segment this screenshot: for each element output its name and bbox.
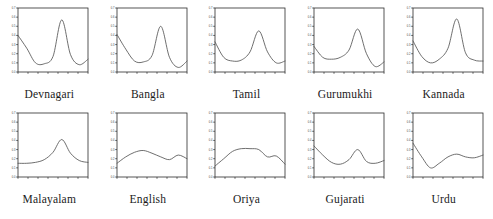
chart-caption-kannada: Kannada xyxy=(423,89,465,101)
chart-caption-malayalam: Malayalam xyxy=(23,194,77,206)
plot-svg: 0.00.10.20.30.40.50.60.7 xyxy=(7,109,91,187)
y-tick-label: 0.5 xyxy=(209,129,213,133)
y-tick-label: 0.2 xyxy=(111,52,115,56)
chart-cell-urdu: 0.00.10.20.30.40.50.60.7 Urdu xyxy=(394,109,493,214)
y-tick-label: 0.0 xyxy=(406,70,410,74)
axes-frame xyxy=(314,8,384,72)
y-tick-label: 0.4 xyxy=(308,138,312,142)
y-tick-label: 0.5 xyxy=(308,129,312,133)
chart-cell-tamil: 0.00.10.20.30.40.50.60.7 Tamil xyxy=(197,4,296,109)
y-tick-label: 0.7 xyxy=(308,111,312,115)
chart-cell-malayalam: 0.00.10.20.30.40.50.60.7 Malayalam xyxy=(0,109,99,214)
plot-svg: 0.00.10.20.30.40.50.60.7 xyxy=(402,4,486,82)
y-tick-label: 0.2 xyxy=(12,52,16,56)
data-line xyxy=(18,140,88,164)
y-tick-label: 0.2 xyxy=(209,52,213,56)
figure-panel-grid: 0.00.10.20.30.40.50.60.7 Devnagari 0.00.… xyxy=(0,0,493,219)
plot-area-gurumukhi: 0.00.10.20.30.40.50.60.7 xyxy=(296,4,395,86)
axes-frame xyxy=(18,113,88,177)
y-tick-label: 0.5 xyxy=(209,24,213,28)
y-tick-label: 0.0 xyxy=(111,70,115,74)
chart-caption-urdu: Urdu xyxy=(431,194,455,206)
y-tick-label: 0.3 xyxy=(308,43,312,47)
y-tick-label: 0.1 xyxy=(406,166,410,170)
y-tick-label: 0.7 xyxy=(308,6,312,10)
plot-area-gujarati: 0.00.10.20.30.40.50.60.7 xyxy=(296,109,395,191)
y-tick-label: 0.0 xyxy=(12,175,16,179)
y-tick-label: 0.3 xyxy=(406,43,410,47)
y-tick-label: 0.7 xyxy=(209,111,213,115)
axes-frame xyxy=(215,8,285,72)
y-tick-label: 0.7 xyxy=(111,111,115,115)
y-tick-label: 0.0 xyxy=(12,70,16,74)
y-tick-label: 0.2 xyxy=(308,157,312,161)
y-tick-label: 0.0 xyxy=(209,70,213,74)
y-tick-label: 0.2 xyxy=(308,52,312,56)
y-tick-label: 0.1 xyxy=(111,166,115,170)
y-tick-label: 0.6 xyxy=(406,15,410,19)
y-tick-label: 0.6 xyxy=(308,15,312,19)
y-tick-label: 0.6 xyxy=(12,15,16,19)
plot-area-tamil: 0.00.10.20.30.40.50.60.7 xyxy=(197,4,296,86)
y-tick-label: 0.1 xyxy=(308,61,312,65)
y-tick-label: 0.0 xyxy=(406,175,410,179)
chart-cell-gujarati: 0.00.10.20.30.40.50.60.7 Gujarati xyxy=(296,109,395,214)
plot-svg: 0.00.10.20.30.40.50.60.7 xyxy=(303,4,387,82)
y-tick-label: 0.4 xyxy=(111,33,115,37)
plot-svg: 0.00.10.20.30.40.50.60.7 xyxy=(204,109,288,187)
y-tick-label: 0.5 xyxy=(406,129,410,133)
y-tick-label: 0.2 xyxy=(111,157,115,161)
plot-area-oriya: 0.00.10.20.30.40.50.60.7 xyxy=(197,109,296,191)
chart-cell-oriya: 0.00.10.20.30.40.50.60.7 Oriya xyxy=(197,109,296,214)
y-tick-label: 0.6 xyxy=(111,120,115,124)
chart-cell-devnagari: 0.00.10.20.30.40.50.60.7 Devnagari xyxy=(0,4,99,109)
y-tick-label: 0.3 xyxy=(111,148,115,152)
y-tick-label: 0.7 xyxy=(406,111,410,115)
plot-svg: 0.00.10.20.30.40.50.60.7 xyxy=(106,109,190,187)
y-tick-label: 0.6 xyxy=(406,120,410,124)
y-tick-label: 0.6 xyxy=(209,120,213,124)
chart-caption-devnagari: Devnagari xyxy=(24,89,74,101)
data-line xyxy=(314,146,384,164)
y-tick-label: 0.5 xyxy=(308,24,312,28)
data-line xyxy=(18,20,88,65)
y-tick-label: 0.4 xyxy=(12,138,16,142)
chart-caption-bangla: Bangla xyxy=(131,89,165,101)
y-tick-label: 0.4 xyxy=(209,33,213,37)
chart-row-top: 0.00.10.20.30.40.50.60.7 Devnagari 0.00.… xyxy=(0,4,493,109)
chart-cell-kannada: 0.00.10.20.30.40.50.60.7 Kannada xyxy=(394,4,493,109)
plot-area-malayalam: 0.00.10.20.30.40.50.60.7 xyxy=(0,109,99,191)
y-tick-label: 0.2 xyxy=(12,157,16,161)
y-tick-label: 0.7 xyxy=(209,6,213,10)
y-tick-label: 0.1 xyxy=(12,61,16,65)
y-tick-label: 0.5 xyxy=(12,129,16,133)
chart-row-bottom: 0.00.10.20.30.40.50.60.7 Malayalam 0.00.… xyxy=(0,109,493,214)
y-tick-label: 0.5 xyxy=(406,24,410,28)
y-tick-label: 0.5 xyxy=(111,24,115,28)
y-tick-label: 0.3 xyxy=(209,148,213,152)
y-tick-label: 0.5 xyxy=(12,24,16,28)
y-tick-label: 0.0 xyxy=(308,175,312,179)
y-tick-label: 0.3 xyxy=(406,148,410,152)
plot-svg: 0.00.10.20.30.40.50.60.7 xyxy=(303,109,387,187)
y-tick-label: 0.7 xyxy=(12,111,16,115)
plot-svg: 0.00.10.20.30.40.50.60.7 xyxy=(7,4,91,82)
y-tick-label: 0.3 xyxy=(12,43,16,47)
axes-frame xyxy=(18,8,88,72)
plot-svg: 0.00.10.20.30.40.50.60.7 xyxy=(402,109,486,187)
y-tick-label: 0.7 xyxy=(12,6,16,10)
y-tick-label: 0.7 xyxy=(406,6,410,10)
y-tick-label: 0.4 xyxy=(12,33,16,37)
data-line xyxy=(117,150,187,163)
y-tick-label: 0.2 xyxy=(406,52,410,56)
plot-area-devnagari: 0.00.10.20.30.40.50.60.7 xyxy=(0,4,99,86)
plot-svg: 0.00.10.20.30.40.50.60.7 xyxy=(106,4,190,82)
y-tick-label: 0.4 xyxy=(406,33,410,37)
axes-frame xyxy=(117,113,187,177)
y-tick-label: 0.5 xyxy=(111,129,115,133)
data-line xyxy=(413,143,483,168)
y-tick-label: 0.1 xyxy=(12,166,16,170)
chart-caption-tamil: Tamil xyxy=(233,89,261,101)
plot-area-bangla: 0.00.10.20.30.40.50.60.7 xyxy=(99,4,198,86)
chart-caption-gujarati: Gujarati xyxy=(325,194,364,206)
